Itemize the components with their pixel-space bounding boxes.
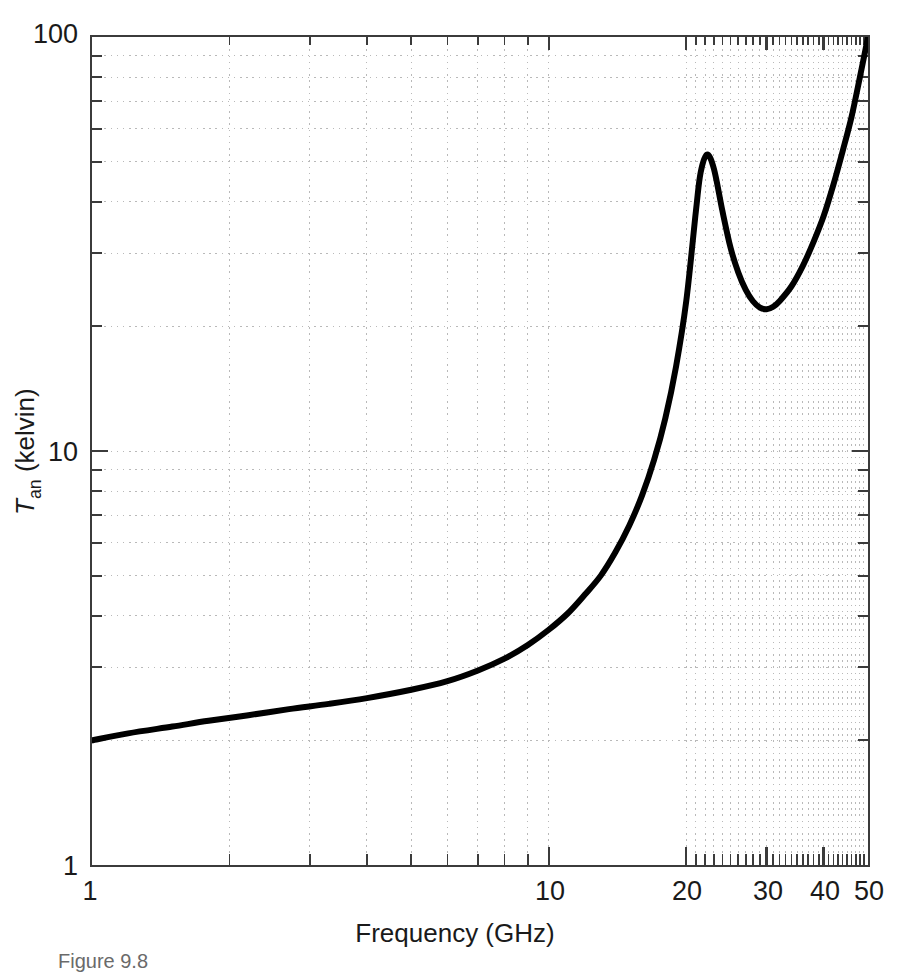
y-axis-title-subscript: an [25,479,45,499]
x-tick-label-40: 40 [810,878,840,905]
y-axis-title: Tan (kelvin) [10,272,45,632]
data-curve [92,37,868,865]
x-tick-label-30: 30 [753,878,783,905]
y-tick-label-1: 1 [0,853,78,880]
y-axis-title-unit: (kelvin) [10,388,40,479]
x-tick-label-1: 1 [82,878,97,905]
plot-area [90,35,870,867]
figure-caption: Figure 9.8 [58,950,148,973]
y-axis-title-symbol: T [10,499,40,515]
x-tick-label-50: 50 [854,878,884,905]
x-tick-label-20: 20 [672,878,702,905]
x-axis-title: Frequency (GHz) [0,918,910,949]
x-tick-label-10: 10 [535,878,565,905]
y-tick-label-100: 100 [0,21,78,48]
